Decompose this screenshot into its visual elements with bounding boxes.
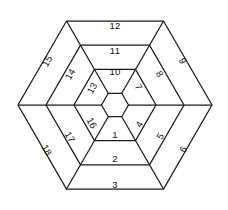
hexagon-cell-label-18: 18 <box>39 143 54 158</box>
hexagon-cell-label-6: 6 <box>177 144 189 154</box>
hexagon-cell-label-14: 14 <box>62 67 77 82</box>
hexagon-cell-label-3: 3 <box>112 179 117 190</box>
hexagon-cell-label-2: 2 <box>112 153 117 164</box>
hexagon-cell-label-11: 11 <box>110 45 120 56</box>
hexagon-cell-label-1: 1 <box>112 129 117 140</box>
hexagon-cell-label-10: 10 <box>110 66 121 77</box>
hexagon-outline-inner <box>102 93 129 116</box>
hexagon-cell-label-9: 9 <box>177 56 189 66</box>
hexagon-diagram-svg: 123456789101112131415161718 <box>0 0 228 210</box>
hexagon-diagram-figure: 123456789101112131415161718 <box>0 0 228 210</box>
hexagon-cell-label-17: 17 <box>62 130 77 145</box>
hexagon-cell-label-8: 8 <box>154 69 166 79</box>
hexagon-cell-label-12: 12 <box>110 20 121 31</box>
hexagon-cell-label-7: 7 <box>133 82 145 92</box>
hexagon-cell-label-15: 15 <box>39 54 54 69</box>
